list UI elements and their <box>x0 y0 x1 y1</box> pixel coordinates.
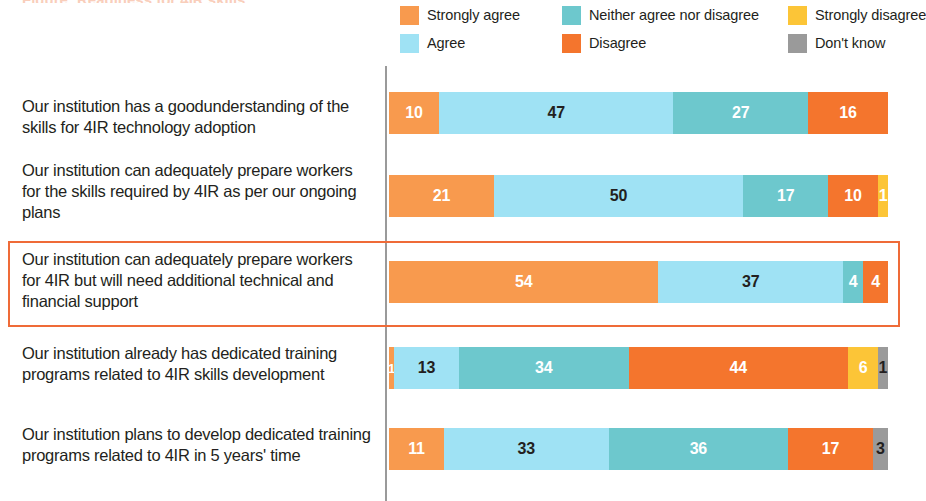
bar-segment-neither[interactable]: 17 <box>743 175 828 217</box>
row-category-label: Our institution already has dedicated tr… <box>22 343 374 385</box>
bar-segment-agree[interactable]: 33 <box>444 428 609 470</box>
stacked-bar[interactable]: 113336173 <box>389 428 888 470</box>
row-category-label: Our institution has a goodunderstanding … <box>22 96 374 138</box>
bar-segment-strongly_disagree[interactable]: 6 <box>848 347 878 389</box>
bar-segment-disagree[interactable]: 4 <box>863 261 888 303</box>
bar-segment-disagree[interactable]: 17 <box>788 428 873 470</box>
bar-segment-strongly_agree[interactable]: 21 <box>389 175 494 217</box>
bar-segment-strongly_agree[interactable]: 11 <box>389 428 444 470</box>
stacked-bar[interactable]: 543744 <box>389 261 888 303</box>
bar-segment-neither[interactable]: 4 <box>843 261 863 303</box>
stacked-bar[interactable]: 10472716 <box>389 92 888 134</box>
stacked-bar[interactable]: 215017101 <box>389 175 888 217</box>
bar-segment-agree[interactable]: 13 <box>394 347 459 389</box>
bar-segment-dont_know[interactable]: 1 <box>878 347 888 389</box>
bar-segment-disagree[interactable]: 16 <box>808 92 888 134</box>
row-category-label: Our institution can adequately prepare w… <box>22 249 374 312</box>
bar-segment-strongly_agree[interactable]: 10 <box>389 92 439 134</box>
bar-segment-dont_know[interactable]: 3 <box>873 428 888 470</box>
bar-segment-strongly_disagree[interactable]: 1 <box>878 175 888 217</box>
bar-segment-agree[interactable]: 47 <box>439 92 674 134</box>
bar-segment-neither[interactable]: 27 <box>673 92 808 134</box>
bar-segment-agree[interactable]: 50 <box>494 175 744 217</box>
row-category-label: Our institution plans to develop dedicat… <box>22 424 374 466</box>
stacked-bar[interactable]: 113344461 <box>389 347 888 389</box>
bar-segment-neither[interactable]: 36 <box>609 428 789 470</box>
bar-segment-agree[interactable]: 37 <box>658 261 843 303</box>
bar-segment-neither[interactable]: 34 <box>459 347 629 389</box>
bar-segment-disagree[interactable]: 10 <box>828 175 878 217</box>
bar-segment-strongly_agree[interactable]: 54 <box>389 261 658 303</box>
bar-segment-disagree[interactable]: 44 <box>629 347 849 389</box>
row-category-label: Our institution can adequately prepare w… <box>22 160 374 223</box>
